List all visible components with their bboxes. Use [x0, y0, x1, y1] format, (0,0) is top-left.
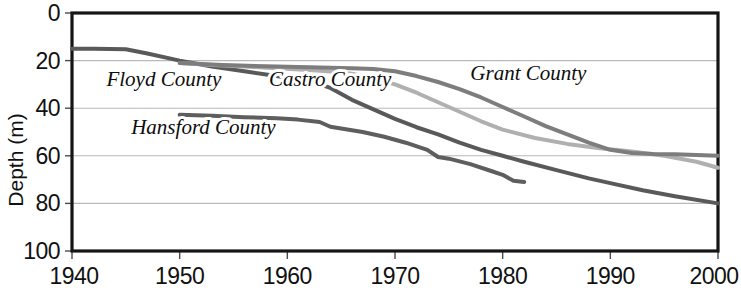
y-tick-label-0: 0 [48, 0, 60, 26]
y-tick-label-80: 80 [35, 190, 60, 216]
x-tick-label-1980: 1980 [478, 263, 527, 289]
series-label-floyd-county: Floyd County [105, 67, 222, 91]
x-tick-label-2000: 2000 [689, 263, 738, 289]
x-tick-label-1990: 1990 [586, 263, 635, 289]
series-label-castro-county: Castro County [269, 67, 392, 91]
x-tick-label-1950: 1950 [155, 263, 204, 289]
series-line-grant-county [180, 63, 718, 156]
y-tick-label-40: 40 [35, 95, 60, 121]
y-axis-title: Depth (m) [4, 113, 27, 206]
x-axis-tick-labels: 1940195019601970198019902000 [49, 263, 738, 289]
depth-vs-year-chart: Floyd CountyFloyd CountyCastro CountyCas… [0, 0, 741, 306]
x-tick-label-1960: 1960 [263, 263, 312, 289]
series-label-grant-county: Grant County [470, 61, 587, 85]
x-tick-label-1970: 1970 [370, 263, 419, 289]
y-tick-label-20: 20 [35, 48, 60, 74]
y-tick-label-100: 100 [23, 238, 60, 264]
chart-canvas: Floyd CountyFloyd CountyCastro CountyCas… [0, 0, 741, 306]
x-tick-label-1940: 1940 [49, 263, 98, 289]
y-tick-label-60: 60 [35, 143, 60, 169]
y-axis-tick-labels: 020406080100 [23, 0, 60, 264]
series-label-hansford-county: Hansford County [130, 115, 276, 139]
